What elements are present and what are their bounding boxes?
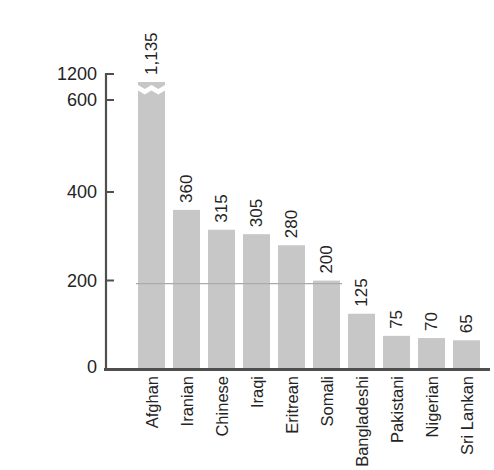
y-tick-label-0: 0 <box>87 357 97 377</box>
category-label-sri-lankan: Sri Lankan <box>458 376 476 455</box>
value-label-nigerian: 70 <box>422 312 441 331</box>
bar-chart-figure: 020040060012001,135360315305280200125757… <box>40 16 494 470</box>
category-label-afghan: Afghan <box>143 376 161 428</box>
y-tick-label-1200: 1200 <box>57 64 97 84</box>
bar-nigerian <box>418 338 445 369</box>
bar-pakistani <box>383 336 410 369</box>
value-label-afghan: 1,135 <box>142 32 161 75</box>
value-label-eritrean: 280 <box>282 210 301 238</box>
bar-chinese <box>208 230 235 369</box>
category-label-nigerian: Nigerian <box>423 376 441 437</box>
bar-somali <box>313 281 340 369</box>
bar-iraqi <box>243 234 270 369</box>
category-label-somali: Somali <box>318 376 336 426</box>
value-label-iraqi: 305 <box>247 199 266 227</box>
chart-canvas: 020040060012001,135360315305280200125757… <box>40 16 494 470</box>
bar-afghan <box>138 82 165 369</box>
value-label-bangladeshi: 125 <box>352 278 371 306</box>
category-label-iranian: Iranian <box>178 376 196 426</box>
category-label-chinese: Chinese <box>213 376 231 437</box>
bar-sri-lankan <box>453 340 480 369</box>
value-label-chinese: 315 <box>212 194 231 222</box>
category-label-bangladeshi: Bangladeshi <box>353 376 371 467</box>
y-tick-label-400: 400 <box>67 182 97 202</box>
value-label-somali: 200 <box>317 245 336 273</box>
value-label-iranian: 360 <box>177 175 196 203</box>
value-label-pakistani: 75 <box>387 310 406 329</box>
bar-bangladeshi <box>348 314 375 369</box>
bar-iranian <box>173 210 200 369</box>
y-tick-label-200: 200 <box>67 271 97 291</box>
category-label-pakistani: Pakistani <box>388 376 406 443</box>
category-label-iraqi: Iraqi <box>248 376 266 408</box>
bar-eritrean <box>278 245 305 369</box>
y-tick-label-600: 600 <box>67 90 97 110</box>
category-label-eritrean: Eritrean <box>283 376 301 434</box>
value-label-sri-lankan: 65 <box>457 314 476 333</box>
